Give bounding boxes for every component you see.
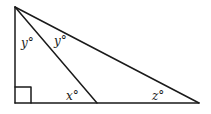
diagram-svg: y° y° x° z°: [0, 0, 211, 114]
angle-label-x: x°: [66, 89, 79, 103]
angle-label-y-right: y°: [53, 34, 67, 48]
triangle-diagram: y° y° x° z°: [0, 0, 211, 114]
right-angle-marker: [15, 87, 31, 103]
cevian-segment: [15, 7, 97, 103]
hypotenuse: [15, 7, 199, 103]
angle-label-y-left: y°: [20, 36, 34, 50]
angle-label-z: z°: [151, 89, 164, 103]
